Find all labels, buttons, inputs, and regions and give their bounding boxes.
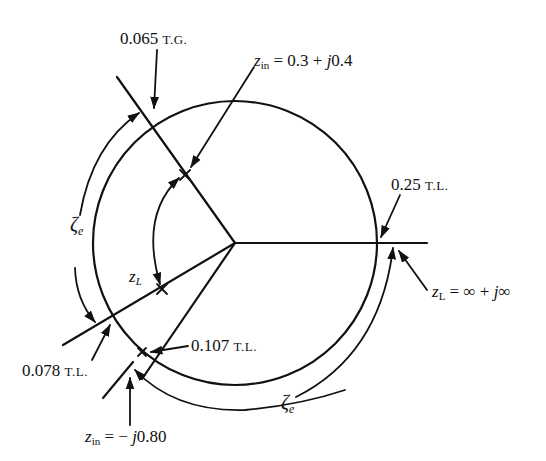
label-078-tl: 0.078 T.L.: [22, 362, 88, 379]
label-025-tl: 0.25 T.L.: [391, 176, 448, 193]
label-zeta-left: ζe: [70, 214, 83, 237]
label-zeta-bottom: ζe: [281, 392, 294, 415]
pointer-zl-inf: [399, 251, 427, 290]
outer-arc-bottom-right: [296, 248, 393, 397]
radial-line-left: [63, 243, 235, 345]
label-107-tl: 0.107 T.L.: [191, 337, 257, 354]
label-zl-inf: zL = ∞ + j∞: [432, 283, 511, 302]
pointer-zin-top: [191, 67, 254, 167]
outer-arc-bottom-left: [135, 370, 345, 410]
inner-rotation-arc: [153, 178, 179, 284]
outer-arc-left-upper: [80, 113, 139, 215]
pointer-107-tl: [151, 346, 188, 352]
outer-arc-left-lower: [75, 268, 95, 322]
pointer-078-tl: [92, 325, 110, 360]
label-zin-bottom: zin = − j0.80: [85, 428, 167, 447]
label-065-tg: 0.065 T.G.: [120, 30, 187, 47]
pointer-025-tl: [381, 195, 400, 237]
pointer-065-tg: [154, 50, 157, 108]
radial-line-lower-left-ext: [103, 362, 133, 398]
label-zin-top: zin = 0.3 + j0.4: [254, 52, 353, 71]
label-zl-point: zL: [129, 268, 142, 287]
